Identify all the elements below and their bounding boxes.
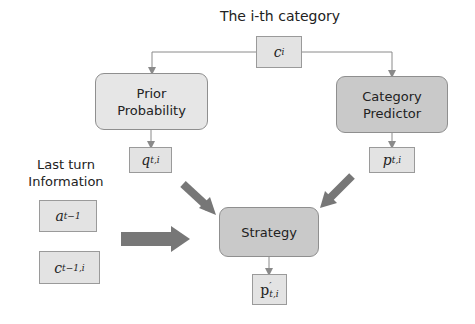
prior-output-var: q	[141, 152, 150, 168]
strategy-box: Strategy	[219, 207, 319, 257]
last-category-box: ct−1,i	[39, 251, 100, 284]
line-ci-to-predictor	[302, 52, 392, 74]
last-category-var: c	[54, 260, 62, 276]
thick-arrow-p-to-strategy	[320, 176, 352, 208]
thick-arrow-lastturn-to-strategy	[121, 226, 190, 252]
category-predictor-line1: Category	[362, 88, 421, 105]
last-turn-line2: Information	[14, 173, 118, 190]
strategy-label: Strategy	[241, 224, 297, 241]
category-input-var: c	[274, 44, 282, 60]
category-predictor-line2: Predictor	[362, 105, 421, 122]
strategy-output-var: p	[260, 282, 269, 298]
line-ci-to-prior	[152, 52, 256, 71]
last-action-sub: t−1	[64, 211, 81, 221]
category-input-box: ci	[256, 36, 302, 68]
diagram-title: The i-th category	[200, 8, 360, 24]
prior-probability-line1: Prior	[117, 85, 186, 102]
thick-arrow-q-to-strategy	[183, 184, 216, 215]
last-action-box: at−1	[39, 200, 97, 232]
last-turn-line1: Last turn	[14, 156, 118, 173]
prior-probability-line2: Probability	[117, 102, 186, 119]
prior-output-sub: t,i	[150, 155, 159, 165]
strategy-output-box: p′t,i	[252, 274, 287, 305]
last-category-sub: t−1,i	[62, 263, 85, 273]
predictor-output-box: pt,i	[369, 147, 415, 173]
predictor-output-sub: t,i	[392, 155, 401, 165]
last-turn-label: Last turn Information	[14, 156, 118, 190]
prior-probability-box: Prior Probability	[95, 73, 208, 130]
last-action-var: a	[55, 208, 63, 224]
prior-output-box: qt,i	[129, 147, 172, 173]
predictor-output-var: p	[383, 152, 392, 168]
category-predictor-box: Category Predictor	[336, 76, 448, 133]
category-input-sub: i	[281, 47, 284, 57]
strategy-output-sub: t,i	[269, 290, 278, 299]
